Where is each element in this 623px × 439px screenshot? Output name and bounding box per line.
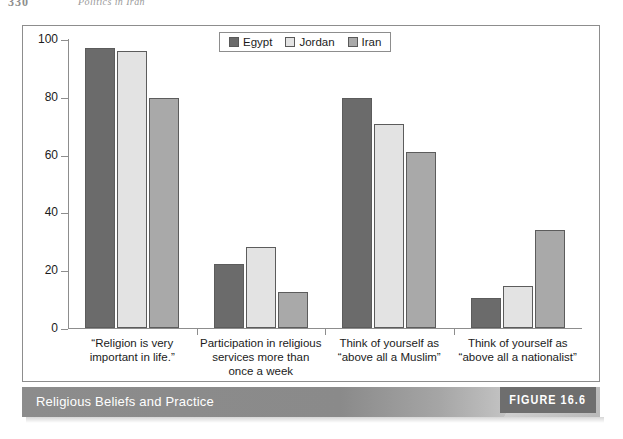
- category-label-line: once a week: [197, 364, 326, 378]
- page-header: 330 Politics in Iran: [0, 0, 623, 16]
- category-label: Think of yourself as“above all a Muslim”: [325, 336, 454, 364]
- category-label-line: “above all a nationalist”: [454, 350, 583, 364]
- category-label: Participation in religiousservices more …: [197, 336, 326, 378]
- category-label-line: important in life.”: [68, 350, 197, 364]
- figure-frame: EgyptJordanIran 020406080100 “Religion i…: [22, 25, 600, 382]
- y-tick-mark: [61, 40, 68, 41]
- y-tick-label: 60: [45, 148, 58, 162]
- bar-jordan: [503, 286, 533, 328]
- bar-group: [197, 39, 326, 328]
- y-tick-mark: [61, 271, 68, 272]
- bar-jordan: [117, 51, 147, 328]
- bar-iran: [406, 152, 436, 328]
- bar-iran: [278, 292, 308, 328]
- y-tick-label: 40: [45, 205, 58, 219]
- category-label-line: Participation in religious: [197, 336, 326, 350]
- figure-number-tag: FIGURE 16.6: [500, 387, 596, 413]
- running-head: Politics in Iran: [78, 0, 145, 7]
- bar-egypt: [471, 298, 501, 328]
- bar-egypt: [214, 264, 244, 328]
- x-tick-mark: [454, 329, 455, 335]
- category-label: Think of yourself as“above all a nationa…: [454, 336, 583, 364]
- bar-group: [325, 39, 454, 328]
- plot-area: 020406080100: [68, 39, 582, 329]
- y-tick-mark: [61, 156, 68, 157]
- figure-caption-title: Religious Beliefs and Practice: [36, 394, 214, 409]
- caption-shadow: [26, 417, 604, 423]
- y-tick-label: 0: [51, 321, 58, 335]
- category-label-line: services more than: [197, 350, 326, 364]
- y-tick-mark: [61, 329, 68, 330]
- x-tick-mark: [197, 329, 198, 335]
- y-tick-label: 80: [45, 90, 58, 104]
- y-tick-mark: [61, 213, 68, 214]
- bar-jordan: [374, 124, 404, 328]
- x-axis-category-labels: “Religion is veryimportant in life.”Part…: [68, 336, 582, 382]
- x-tick-mark: [325, 329, 326, 335]
- category-label: “Religion is veryimportant in life.”: [68, 336, 197, 364]
- figure-caption-bar: Religious Beliefs and Practice FIGURE 16…: [22, 387, 600, 417]
- bar-egypt: [342, 98, 372, 328]
- bar-egypt: [85, 48, 115, 328]
- y-tick-mark: [61, 98, 68, 99]
- y-tick-label: 20: [45, 263, 58, 277]
- bar-iran: [149, 98, 179, 328]
- figure-number-label: FIGURE 16.6: [510, 393, 587, 407]
- category-label-line: “Religion is very: [68, 336, 197, 350]
- category-label-line: Think of yourself as: [454, 336, 583, 350]
- category-label-line: “above all a Muslim”: [325, 350, 454, 364]
- bar-group: [454, 39, 583, 328]
- y-tick-label: 100: [38, 32, 58, 46]
- category-label-line: Think of yourself as: [325, 336, 454, 350]
- page-folio: 330: [8, 0, 29, 10]
- bar-iran: [535, 230, 565, 328]
- bar-jordan: [246, 247, 276, 328]
- bar-group: [68, 39, 197, 328]
